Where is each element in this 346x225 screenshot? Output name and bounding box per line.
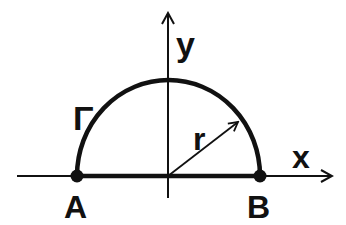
radius-label: r — [193, 121, 205, 157]
y-axis-label: y — [176, 25, 195, 63]
semicircle-diagram: y x Γ r A B — [0, 0, 346, 225]
point-b-label: B — [247, 189, 270, 225]
curve-label: Γ — [73, 99, 93, 137]
point-a — [71, 170, 84, 183]
point-b — [254, 170, 267, 183]
point-a-label: A — [64, 189, 87, 225]
x-axis-label: x — [292, 139, 310, 175]
